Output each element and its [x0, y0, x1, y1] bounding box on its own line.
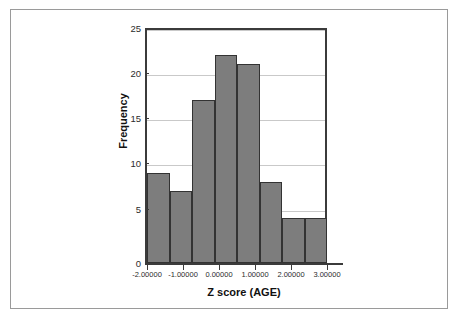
- y-tick-label-25: 25: [119, 24, 141, 34]
- bar-bin-7: [282, 218, 305, 263]
- y-tick-label-20: 20: [119, 69, 141, 79]
- x-tick-label-1: 1.00000: [241, 271, 268, 279]
- bar-bin-8: [305, 218, 328, 263]
- figure-frame: 25 20 15 10 5 0 -2.00000 -1.00000 0.0000…: [10, 9, 448, 309]
- bar-bin-1: [147, 173, 170, 263]
- x-tick-label--1: -1.00000: [168, 271, 198, 279]
- bar-bin-6: [260, 182, 283, 263]
- bar-bin-4: [215, 55, 238, 263]
- y-tick-mark-10: [145, 163, 149, 164]
- x-axis-title: Z score (AGE): [145, 286, 343, 298]
- y-axis-title: Frequency: [117, 93, 129, 149]
- x-tick-label-2: 2.00000: [277, 271, 304, 279]
- x-tick-label--2: -2.00000: [132, 271, 162, 279]
- x-axis-ticks: -2.00000 -1.00000 0.00000 1.00000 2.0000…: [145, 265, 345, 285]
- bar-bin-5: [237, 64, 260, 263]
- y-tick-mark-20: [145, 73, 149, 74]
- y-tick-mark-0: [145, 263, 149, 264]
- bar-bin-2: [170, 191, 193, 263]
- histogram-chart: 25 20 15 10 5 0 -2.00000 -1.00000 0.0000…: [11, 10, 449, 310]
- y-tick-label-10: 10: [119, 159, 141, 169]
- y-tick-mark-15: [145, 118, 149, 119]
- x-tick-label-3: 3.00000: [313, 271, 340, 279]
- bars-layer: [147, 28, 327, 263]
- y-tick-mark-25: [145, 28, 149, 29]
- y-tick-label-5: 5: [119, 205, 141, 215]
- bar-bin-3: [192, 100, 215, 263]
- y-tick-label-0: 0: [119, 259, 141, 269]
- y-tick-mark-5: [145, 209, 149, 210]
- x-tick-label-0: 0.00000: [205, 271, 232, 279]
